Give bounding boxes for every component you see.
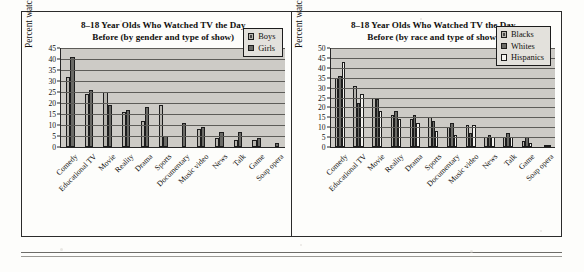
y-axis-tick-mark [57,70,60,71]
horizontal-rule [21,252,562,257]
y-axis-tick-mark [327,97,330,98]
y-axis-tick-label: 45 [318,53,326,62]
gridline [331,78,556,79]
y-axis-tick-mark [57,136,60,137]
y-axis-tick-mark [57,147,60,148]
gridline [61,103,285,104]
y-axis-tick-label: 0 [322,143,326,152]
x-axis-tick-label: Talk [502,152,518,168]
x-axis-tick-mark [126,147,127,148]
gridline [61,59,285,60]
y-axis-tick-mark [57,92,60,93]
y-axis-tick-label: 40 [48,55,56,64]
gridline [331,107,556,108]
gridline [331,68,556,69]
y-axis-tick-mark [57,81,60,82]
paper-speck [120,20,122,22]
legend-swatch [501,43,507,49]
legend-swatch [248,45,254,51]
y-axis-tick-label: 25 [48,88,56,97]
gridline [331,88,556,89]
x-axis-tick-mark [163,147,164,148]
y-axis-tick-mark [327,57,330,58]
legend-item: Whites [501,42,544,51]
paper-speck [540,230,542,232]
bar [510,137,513,147]
x-axis-tick-mark [359,147,360,148]
y-axis-label-race: Percent watching the day before [294,0,305,48]
y-axis-tick-label: 30 [48,77,56,86]
y-axis-label-gender: Percent watching the day before [24,0,35,48]
legend-swatch [248,33,254,39]
legend-label: Hispanics [511,53,544,62]
x-axis-tick-label: Movie [366,152,387,173]
x-axis-tick-label: News [210,152,229,171]
bar-group-container-gender [61,48,285,147]
y-axis-tick-label: 5 [322,133,326,142]
legend-item: Boys [248,32,275,41]
plot-area-gender [60,48,285,148]
y-axis-tick-label: 0 [52,143,56,152]
y-axis-tick-mark [57,114,60,115]
x-axis-tick-mark [182,147,183,148]
bar-group [136,48,155,147]
bar-group [210,48,229,147]
x-axis-tick-mark [257,147,258,148]
y-axis-tick-mark [327,107,330,108]
x-axis-tick-label: News [480,152,499,171]
legend-swatch [501,31,507,37]
bar-group [98,48,117,147]
chart-panel-race: 8–18 Year Olds Who Watched TV the Day Be… [292,12,562,236]
bar-group [191,48,210,147]
bar [360,94,363,147]
gridline [61,114,285,115]
y-axis-tick-label: 20 [48,99,56,108]
bar [238,132,242,147]
plot-area-wrapper-gender: 051015202530354045 [60,48,285,148]
x-axis-tick-mark [70,147,71,148]
legend-label: Girls [258,44,275,53]
y-axis-tick-label: 5 [52,132,56,141]
legend-swatch [501,54,507,60]
x-axis-labels-gender: ComedyEducational TVMovieRealityDramaSpo… [60,152,285,232]
bar [342,62,345,147]
y-axis-tick-label: 35 [48,66,56,75]
y-axis-tick-label: 45 [48,44,56,53]
charts-container: 8–18 Year Olds Who Watched TV the Day Be… [21,11,562,237]
bar-group [80,48,99,147]
legend-gender: BoysGirls [243,28,282,57]
y-axis-tick-label: 20 [318,103,326,112]
y-axis-tick-mark [327,147,330,148]
x-axis-tick-mark [471,147,472,148]
x-axis-labels-race: ComedyEducational TVMovieRealityDramaSpo… [330,152,556,232]
bar-group [173,48,192,147]
y-axis-tick-label: 40 [318,63,326,72]
x-axis-tick-mark [89,147,90,148]
gridline [61,136,285,137]
bar [201,127,205,147]
x-axis-tick-label: Drama [133,152,154,173]
gridline [331,117,556,118]
x-axis-tick-mark [433,147,434,148]
y-axis-tick-mark [57,59,60,60]
paper-speck [420,18,422,20]
x-axis-tick-mark [340,147,341,148]
x-axis-tick-mark [489,147,490,148]
x-axis-tick-label: Reality [383,152,405,174]
y-axis-tick-mark [327,77,330,78]
page-canvas: 8–18 Year Olds Who Watched TV the Day Be… [0,0,584,272]
x-axis-tick-label: Drama [403,152,424,173]
x-axis-tick-mark [377,147,378,148]
chart-panel-gender: 8–18 Year Olds Who Watched TV the Day Be… [22,12,292,236]
x-axis-tick-mark [108,147,109,148]
bar [126,110,130,147]
bar-group [247,48,266,147]
x-axis-tick-label: Reality [113,152,135,174]
x-axis-tick-mark [201,147,202,148]
y-axis-tick-mark [327,117,330,118]
y-axis-tick-label: 15 [48,110,56,119]
bar [108,105,112,147]
x-axis-tick-mark [275,147,276,148]
x-axis-tick-mark [508,147,509,148]
gridline [331,98,556,99]
